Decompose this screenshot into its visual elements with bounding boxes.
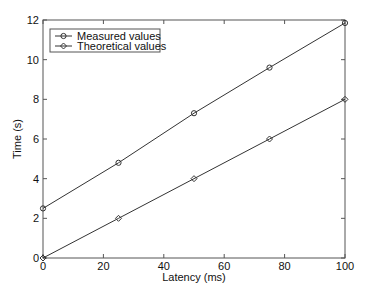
y-tick-label: 8 [33, 93, 39, 105]
data-series [40, 20, 348, 261]
y-tick-label: 0 [33, 252, 39, 264]
series-line [43, 99, 345, 258]
x-tick-label: 0 [40, 260, 46, 272]
y-tick-label: 6 [33, 133, 39, 145]
line-chart: 020406080100024681012 Measured valuesThe… [0, 0, 369, 300]
y-tick-label: 2 [33, 212, 39, 224]
y-tick-label: 10 [27, 54, 39, 66]
legend-label: Theoretical values [77, 40, 167, 52]
x-tick-label: 80 [278, 260, 290, 272]
legend: Measured valuesTheoretical values [50, 29, 167, 52]
plot-border [43, 20, 345, 258]
x-axis-label: Latency (ms) [162, 271, 226, 283]
series-theoretical-values [40, 96, 348, 261]
y-axis-label: Time (s) [11, 119, 23, 159]
y-tick-label: 4 [33, 173, 39, 185]
axis-ticks: 020406080100024681012 [27, 14, 354, 272]
x-tick-label: 100 [336, 260, 354, 272]
x-tick-label: 20 [97, 260, 109, 272]
plot-frame [43, 20, 345, 258]
y-tick-label: 12 [27, 14, 39, 26]
